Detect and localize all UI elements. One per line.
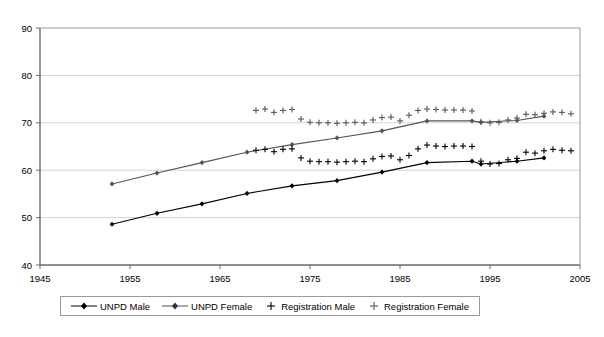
series-line [112,116,544,184]
axis-y-tick-label: 90 [21,23,32,34]
legend-label-registration-male: Registration Male [281,301,355,312]
series-unpd-male [110,155,547,227]
legend-label-unpd-female: UNPD Female [191,301,252,312]
data-point-diamond [155,170,160,175]
axis-x-tick-label: 1965 [209,273,230,284]
data-point-diamond [335,178,340,183]
data-point-diamond [110,222,115,227]
legend-item-unpd-female[interactable]: UNPD Female [162,301,252,312]
data-point-diamond [290,183,295,188]
data-point-diamond [335,135,340,140]
data-point-diamond [200,160,205,165]
data-point-diamond [200,201,205,206]
data-point-diamond [425,160,430,165]
axis-y-tick-label: 70 [21,117,32,128]
axis-y-tick-label: 50 [21,212,32,223]
axis-x-tick-label: 1945 [29,273,50,284]
data-point-diamond [380,128,385,133]
legend-marker-diamond-line [71,301,97,311]
axis-y-tick-label: 60 [21,165,32,176]
data-point-diamond [470,159,475,164]
axis-x-tick-label: 1955 [119,273,140,284]
chart-plot-area: 4050607080901945195519651975198519952005 [0,0,604,290]
chart-page: 4050607080901945195519651975198519952005… [0,0,604,337]
data-point-diamond [245,191,250,196]
axis-x-tick-label: 1995 [479,273,500,284]
line-chart: 4050607080901945195519651975198519952005 [0,0,604,290]
data-point-diamond [245,150,250,155]
axis-x-tick-label: 2005 [569,273,590,284]
axis-x-tick-label: 1975 [299,273,320,284]
legend-label-unpd-male: UNPD Male [100,301,150,312]
axis-x-tick-label: 1985 [389,273,410,284]
series-line [112,158,544,224]
axis-y-tick-label: 80 [21,70,32,81]
legend-item-unpd-male[interactable]: UNPD Male [71,301,150,312]
data-point-diamond [110,181,115,186]
data-point-diamond [155,211,160,216]
legend-marker-diamond-line [162,301,188,311]
series-registration-male [253,142,574,167]
data-point-diamond [542,155,547,160]
legend-item-registration-female[interactable]: Registration Female [367,301,469,312]
legend-marker-plus [264,301,278,311]
legend-item-registration-male[interactable]: Registration Male [264,301,355,312]
chart-legend: UNPD Male UNPD Female Registration Male … [60,296,480,316]
legend-marker-plus [367,301,381,311]
legend-label-registration-female: Registration Female [384,301,469,312]
axis-y-tick-label: 40 [21,260,32,271]
